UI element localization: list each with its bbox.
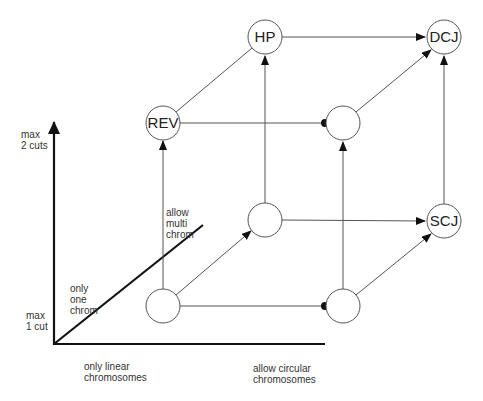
edge-multi1-scj — [282, 220, 425, 221]
axis-label-max-1-cut: max 1 cut — [26, 310, 48, 332]
diagram-canvas: REV HP DCJ SCJ — [0, 0, 483, 401]
node-circ1 — [326, 289, 360, 323]
axis-label-only-one-chrom: only one chrom — [70, 283, 98, 316]
node-label-hp: HP — [255, 28, 276, 45]
node-label-scj: SCJ — [430, 212, 458, 229]
nodes — [146, 20, 461, 323]
axis-label-allow-multi-chrom: allow multi chrom — [166, 207, 194, 240]
edge-rev-hp — [176, 48, 252, 112]
axis-label-max-2-cuts: max 2 cuts — [21, 129, 48, 151]
edge-circ2-dcj — [356, 50, 431, 112]
edge-circ1-scj — [356, 234, 431, 295]
axis-label-only-linear: only linear chromosomes — [84, 361, 147, 383]
node-lin1 — [146, 289, 180, 323]
edge-lin1-multi1 — [176, 231, 251, 295]
node-multi1 — [248, 203, 282, 237]
node-label-dcj: DCJ — [429, 28, 458, 45]
edges — [163, 37, 444, 306]
axis-label-allow-circular: allow circular chromosomes — [253, 363, 316, 385]
node-circ2 — [326, 106, 360, 140]
node-label-rev: REV — [148, 114, 179, 131]
